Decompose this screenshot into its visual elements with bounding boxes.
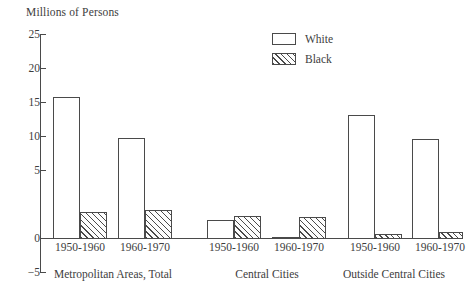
period-label-metro-1960-1970: 1960-1970 xyxy=(120,241,170,253)
y-tick-label-5: 5 xyxy=(6,164,40,176)
group-label-metropolitan-areas-total: Metropolitan Areas, Total xyxy=(54,268,172,280)
bar-metro-1950-1960-black xyxy=(80,212,107,239)
y-tick-label-0: 0 xyxy=(6,232,40,244)
y-tick-label-25: 25 xyxy=(6,28,40,40)
bar-outside-1950-1960-white xyxy=(348,115,375,239)
period-label-central-1950-1960: 1950-1960 xyxy=(209,241,259,253)
period-label-central-1960-1970: 1960-1970 xyxy=(274,241,324,253)
y-tick-label-20: 20 xyxy=(6,62,40,74)
period-label-outside-1960-1970: 1960-1970 xyxy=(415,241,465,253)
legend-label-white: White xyxy=(305,33,333,45)
legend-swatch-white-icon xyxy=(272,33,296,45)
period-label-outside-1950-1960: 1950-1960 xyxy=(350,241,400,253)
y-axis-line xyxy=(40,34,41,272)
bar-central-1960-1970-black xyxy=(299,217,326,239)
y-tick-label-15: 15 xyxy=(6,96,40,108)
bar-central-1960-1970-white xyxy=(272,237,299,239)
y-tick-label-10: 10 xyxy=(6,130,40,142)
legend-label-black: Black xyxy=(305,53,332,65)
bar-outside-1960-1970-black xyxy=(439,232,463,239)
bar-outside-1950-1960-black xyxy=(375,234,402,239)
period-label-metro-1950-1960: 1950-1960 xyxy=(55,241,105,253)
bar-chart: Millions of Persons 25 20 15 10 5 0 −5 xyxy=(0,0,467,295)
legend-item-black: Black xyxy=(272,50,333,68)
chart-legend: White Black xyxy=(272,30,333,70)
bar-central-1950-1960-black xyxy=(234,216,261,239)
bar-metro-1960-1970-black xyxy=(145,210,172,239)
chart-axis-title: Millions of Persons xyxy=(26,6,119,18)
legend-item-white: White xyxy=(272,30,333,48)
bar-metro-1950-1960-white xyxy=(53,97,80,239)
bar-central-1950-1960-white xyxy=(207,220,234,239)
legend-swatch-black-icon xyxy=(272,53,296,65)
group-label-central-cities: Central Cities xyxy=(235,268,299,280)
bar-outside-1960-1970-white xyxy=(412,139,439,239)
y-tick-label-neg5: −5 xyxy=(6,266,40,278)
bar-metro-1960-1970-white xyxy=(118,138,145,239)
group-label-outside-central-cities: Outside Central Cities xyxy=(343,268,445,280)
